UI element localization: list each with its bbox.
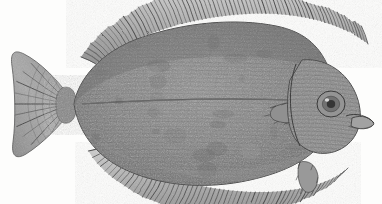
illustration-plate: Flounder	[0, 0, 382, 204]
flatfish-engraving	[0, 0, 382, 204]
plate-tone	[0, 0, 382, 204]
